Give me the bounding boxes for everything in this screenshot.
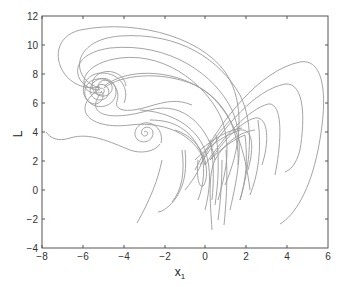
y-tick-label: 10: [27, 40, 39, 51]
y-tick-label: 4: [32, 127, 38, 138]
x-axis: [42, 16, 287, 248]
x-axis-label: x1: [175, 265, 186, 281]
bundle-3: [175, 130, 207, 186]
y-axis-label: L: [11, 130, 25, 137]
tail-hook-2: [172, 150, 183, 202]
tail-left: [137, 160, 162, 223]
x-tick-label: −2: [159, 251, 171, 262]
tail-center-4: [215, 135, 218, 205]
y-axis: [42, 45, 328, 219]
y-tick-label: −4: [27, 243, 39, 254]
y-tick-label: 6: [32, 98, 38, 109]
phase-portrait-chart: −8 −6 −4 −2 0 2 4 6 −4 −2 0 2 4 6 8 10 1…: [0, 0, 345, 287]
y-tick-label: 2: [32, 156, 38, 167]
y-tick-label: −2: [27, 214, 39, 225]
x-tick-label: 2: [243, 251, 249, 262]
x-tick-label: 6: [325, 251, 331, 262]
tail-center-2: [224, 150, 227, 225]
y-tick-label: 8: [32, 69, 38, 80]
tail-right-2: [250, 120, 260, 195]
x-tick-labels: −8 −6 −4 −2 0 2 4 6: [36, 251, 331, 262]
y-tick-labels: −4 −2 0 2 4 6 8 10 12: [27, 11, 39, 254]
trajectories: [46, 27, 324, 230]
x-tick-label: 0: [202, 251, 208, 262]
x-tick-label: −8: [36, 251, 48, 262]
x-tick-label: 4: [284, 251, 290, 262]
x-tick-label: −6: [77, 251, 89, 262]
trajectory-outer-6: [96, 94, 215, 160]
x-tick-label: −4: [118, 251, 130, 262]
y-tick-label: 12: [27, 11, 39, 22]
y-tick-label: 0: [32, 185, 38, 196]
